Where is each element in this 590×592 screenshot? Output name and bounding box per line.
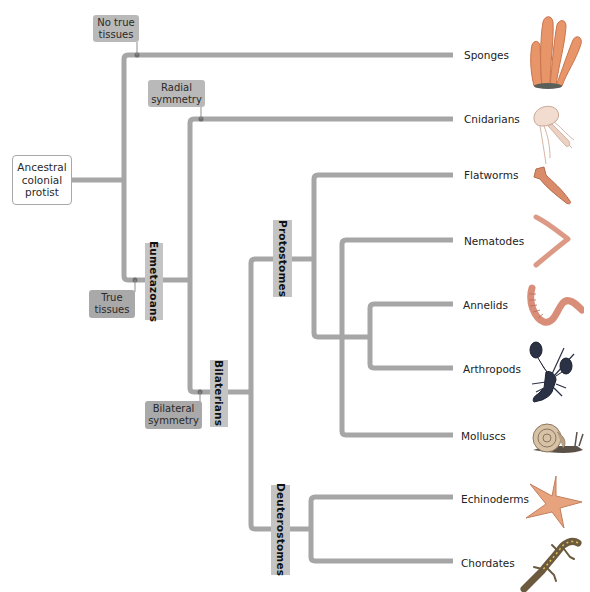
jellyfish-icon [528, 100, 583, 165]
branch-flatworms [314, 175, 453, 337]
phylogenetic-tree-diagram: Ancestral colonial protist No true tissu… [0, 0, 590, 592]
label-bilateral-symmetry: Bilateral symmetry [145, 401, 202, 429]
branch-annelids-arthropods [370, 304, 453, 368]
flatworm-icon [532, 165, 577, 205]
starfish-icon [520, 474, 585, 529]
sponge-icon [526, 10, 586, 90]
lobster-icon [522, 340, 582, 405]
earthworm-icon [526, 282, 584, 327]
nematode-icon [530, 213, 575, 268]
root-ancestral-protist: Ancestral colonial protist [12, 155, 72, 205]
branch-deuterostomes [311, 497, 453, 561]
taxon-nematodes: Nematodes [464, 235, 524, 247]
label-no-true-tissues: No true tissues [93, 15, 139, 42]
taxon-cnidarians: Cnidarians [464, 113, 520, 125]
taxon-annelids: Annelids [463, 299, 508, 311]
label-radial-symmetry: Radial symmetry [148, 80, 205, 107]
taxon-flatworms: Flatworms [464, 169, 518, 181]
salamander-icon [520, 537, 585, 592]
branch-cnidarians [190, 119, 453, 392]
clade-protostomes: Protostomes [273, 220, 292, 297]
taxon-molluscs: Molluscs [461, 430, 506, 442]
taxon-chordates: Chordates [461, 557, 515, 569]
clade-bilaterians: Bilaterians [210, 360, 228, 427]
snail-icon [527, 418, 587, 458]
clade-eumetazoans: Eumetazoans [145, 243, 163, 320]
clade-deuterostomes: Deuterostomes [271, 485, 290, 575]
taxon-arthropods: Arthropods [463, 363, 521, 375]
taxon-sponges: Sponges [464, 49, 509, 61]
taxon-echinoderms: Echinoderms [461, 493, 529, 505]
label-true-tissues: True tissues [89, 290, 135, 318]
